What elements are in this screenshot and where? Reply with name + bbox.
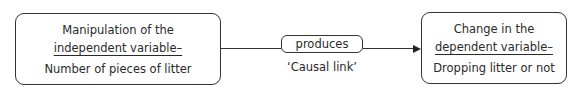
independent-variable-box: Manipulation of the independent variable… xyxy=(15,13,221,85)
produces-box: produces xyxy=(281,35,363,53)
dependent-variable-label: dependent variable– xyxy=(435,40,553,54)
arrowhead-icon xyxy=(413,45,421,53)
dependent-variable-heading: Change in the xyxy=(454,22,535,36)
connector-line-left xyxy=(221,48,281,49)
dependent-variable-value: Dropping litter or not xyxy=(433,61,555,75)
connector-line-right xyxy=(363,48,415,49)
produces-label: produces xyxy=(296,37,349,51)
independent-variable-value: Number of pieces of litter xyxy=(44,62,191,76)
causal-link-caption: ‘Causal link’ xyxy=(281,60,363,74)
independent-variable-label: independent variable– xyxy=(54,41,183,55)
independent-variable-heading: Manipulation of the xyxy=(62,23,174,37)
dependent-variable-box: Change in the dependent variable– Droppi… xyxy=(421,12,567,84)
